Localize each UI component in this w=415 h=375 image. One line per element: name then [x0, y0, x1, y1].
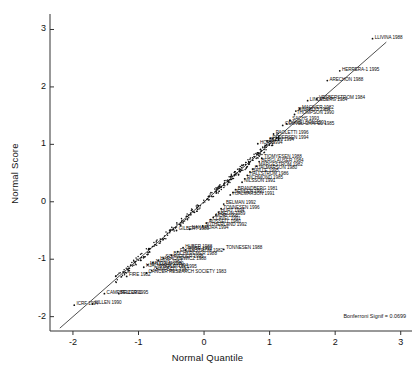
data-point: [104, 293, 106, 295]
data-point: [134, 261, 136, 263]
data-point: [196, 207, 198, 209]
data-point: [223, 249, 225, 251]
data-point: [256, 157, 258, 159]
data-point: [229, 194, 231, 196]
data-point: [246, 166, 248, 168]
bonferroni-annotation: Bonferroni Signif = 0.0699: [344, 313, 407, 319]
data-point: [228, 181, 230, 183]
data-point: [169, 230, 171, 232]
data-point: [262, 146, 264, 148]
data-point: [141, 257, 143, 259]
data-point: [179, 224, 181, 226]
data-point-label: FIRE 1982: [129, 273, 151, 278]
data-point: [198, 208, 200, 210]
y-tick-label: 3: [26, 23, 46, 33]
data-point-label: NAKAMURA 1994: [192, 226, 229, 231]
data-point: [181, 220, 183, 222]
x-tick-label: -1: [127, 337, 151, 347]
data-point: [216, 191, 218, 193]
data-point: [259, 153, 261, 155]
data-point-label: PFIZER 1995: [121, 291, 148, 296]
data-point: [115, 276, 117, 278]
data-point: [248, 161, 250, 163]
data-point: [126, 276, 128, 278]
data-point: [257, 152, 259, 154]
data-point: [140, 260, 142, 262]
data-point: [184, 220, 186, 222]
data-point: [183, 222, 185, 224]
data-point: [253, 156, 255, 158]
data-point: [224, 182, 226, 184]
data-point: [265, 147, 267, 149]
data-point: [129, 268, 131, 270]
data-point: [219, 186, 221, 188]
data-point: [152, 246, 154, 248]
data-points: [73, 38, 373, 306]
data-point: [135, 257, 137, 259]
data-point: [218, 190, 220, 192]
data-point: [282, 124, 284, 126]
data-point: [238, 168, 240, 170]
data-point: [231, 174, 233, 176]
data-point-label: NILSSON 1991: [244, 179, 275, 184]
y-tick-label: -1: [26, 253, 46, 263]
data-point: [204, 201, 206, 203]
data-point: [138, 260, 140, 262]
data-point: [197, 209, 199, 211]
data-point: [160, 239, 162, 241]
data-point: [260, 149, 262, 151]
data-point: [154, 244, 156, 246]
data-point: [120, 276, 122, 278]
data-point: [237, 168, 239, 170]
data-point: [229, 179, 231, 181]
data-point: [73, 304, 75, 306]
data-point-label: LLIVINA 1988: [375, 36, 403, 41]
data-point: [133, 260, 135, 262]
data-point: [225, 180, 227, 182]
data-point: [164, 235, 166, 237]
data-point: [249, 159, 251, 161]
data-point: [230, 176, 232, 178]
data-point: [130, 264, 132, 266]
data-point-label: KILLEN 1990: [95, 301, 122, 306]
y-tick-label: 1: [26, 138, 46, 148]
data-point: [149, 248, 151, 250]
data-point: [187, 219, 189, 221]
data-point: [127, 266, 129, 268]
data-point: [223, 187, 225, 189]
data-point: [213, 196, 215, 198]
data-point: [176, 230, 178, 232]
data-point: [126, 272, 128, 274]
data-point: [188, 214, 190, 216]
data-point: [203, 199, 205, 201]
data-point: [193, 211, 195, 213]
data-point: [253, 154, 255, 156]
data-point: [261, 150, 263, 152]
data-point: [196, 210, 198, 212]
data-point: [180, 224, 182, 226]
x-tick-label: 3: [389, 337, 413, 347]
data-point-label: HERRERA-1 1995: [342, 68, 379, 73]
data-point: [176, 223, 178, 225]
data-point: [156, 239, 158, 241]
data-point: [127, 269, 128, 271]
data-point: [224, 180, 226, 182]
data-point: [247, 159, 249, 161]
x-tick-label: 1: [258, 337, 282, 347]
data-point: [124, 274, 126, 276]
data-point: [159, 242, 161, 244]
data-point: [248, 163, 250, 165]
data-point: [165, 231, 167, 233]
data-point: [239, 166, 241, 168]
data-point: [140, 253, 142, 255]
data-point: [211, 196, 213, 198]
data-point: [227, 184, 229, 186]
data-point: [140, 258, 142, 260]
data-point: [241, 170, 243, 172]
data-point: [208, 196, 210, 198]
data-point: [191, 210, 193, 212]
data-point: [307, 100, 309, 102]
data-point: [203, 202, 205, 204]
data-point: [181, 221, 183, 223]
data-point: [147, 252, 149, 254]
